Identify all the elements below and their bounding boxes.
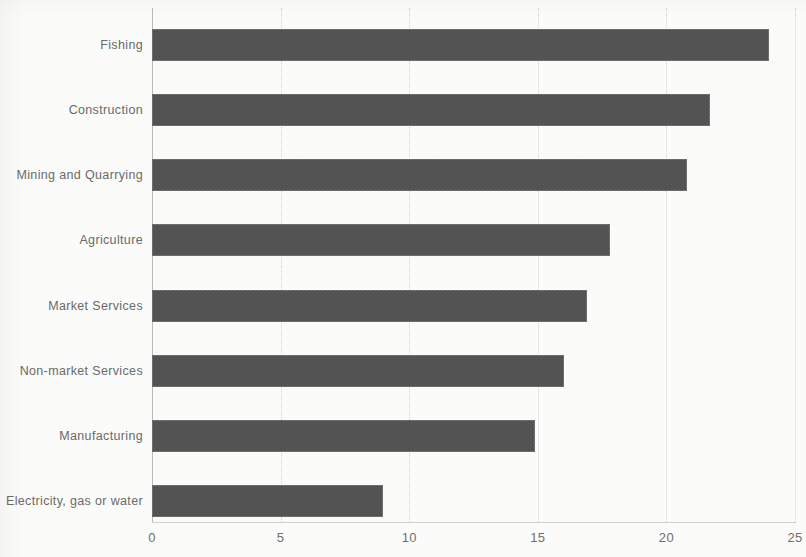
category-label-market-services: Market Services [0, 290, 143, 322]
bar-fishing [152, 29, 769, 61]
bar-market-services [152, 290, 587, 322]
category-label-electricity-gas-or-water: Electricity, gas or water [0, 485, 143, 517]
x-tick-label-25: 25 [775, 530, 806, 545]
category-label-text: Mining and Quarrying [16, 168, 143, 182]
category-label-manufacturing: Manufacturing [0, 420, 143, 452]
bar-manufacturing [152, 420, 535, 452]
bar-mining-and-quarrying [152, 159, 687, 191]
bar-construction [152, 94, 710, 126]
bar-electricity-gas-or-water [152, 485, 383, 517]
x-axis-line [152, 522, 796, 523]
category-label-text: Fishing [100, 38, 143, 52]
plot-area [152, 8, 795, 522]
gridline-15 [538, 8, 540, 522]
x-tick-label-10: 10 [389, 530, 429, 545]
category-label-mining-and-quarrying: Mining and Quarrying [0, 159, 143, 191]
category-label-non-market-services: Non-market Services [0, 355, 143, 387]
category-label-agriculture: Agriculture [0, 224, 143, 256]
gridline-25 [795, 8, 797, 522]
category-label-construction: Construction [0, 94, 143, 126]
category-label-text: Market Services [48, 299, 143, 313]
category-label-text: Agriculture [79, 233, 143, 247]
category-label-text: Construction [69, 103, 143, 117]
category-label-text: Non-market Services [20, 364, 143, 378]
bar-non-market-services [152, 355, 564, 387]
category-label-fishing: Fishing [0, 29, 143, 61]
bar-chart: Fishing Construction Mining and Quarryin… [0, 0, 806, 557]
category-label-text: Electricity, gas or water [6, 494, 143, 508]
x-tick-label-20: 20 [646, 530, 686, 545]
bar-agriculture [152, 224, 610, 256]
category-label-text: Manufacturing [59, 429, 143, 443]
x-tick-label-15: 15 [518, 530, 558, 545]
x-tick-label-0: 0 [132, 530, 172, 545]
gridline-20 [666, 8, 668, 522]
x-tick-label-5: 5 [261, 530, 301, 545]
